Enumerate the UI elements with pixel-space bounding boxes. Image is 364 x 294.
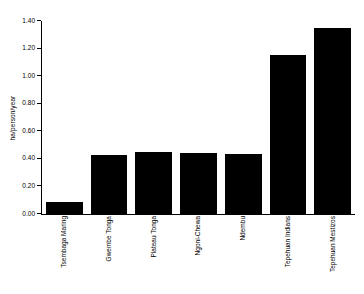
bar-slot [221, 21, 266, 214]
y-axis-tick: 0.20 [37, 185, 41, 186]
x-axis-line [41, 214, 355, 215]
bar [46, 202, 83, 214]
y-axis-tick-label: 0.60 [22, 128, 35, 135]
bar-slot [87, 21, 132, 214]
bar-slot [42, 21, 87, 214]
x-axis-tick-slot: Tepehuan Mestizos [310, 216, 355, 294]
y-axis-tick-label: 0.40 [22, 155, 35, 162]
x-axis-tick-slot: Ndembu [221, 216, 266, 294]
y-axis-tick-label: 1.20 [22, 45, 35, 52]
x-axis-tick-slot: Ngoni-Chewa [176, 216, 221, 294]
bar-slot [310, 21, 355, 214]
x-axis-tick-label: Ngoni-Chewa [195, 216, 202, 255]
y-axis-tick: 1.00 [37, 75, 41, 76]
x-axis-tick-label: Tsembaga Maring [61, 216, 68, 268]
y-axis-tick: 0.80 [37, 103, 41, 104]
x-axis-tick-label: Ndembu [240, 216, 247, 241]
x-axis-tick-slot: Tsembaga Maring [42, 216, 87, 294]
y-axis-tick-label: 0.20 [22, 183, 35, 190]
x-axis-tick-slot: Gwembe Tonga [87, 216, 132, 294]
bar-chart-figure: ha/person/year 0.000.200.400.600.801.001… [0, 0, 364, 294]
bar [91, 155, 128, 214]
bar [180, 153, 217, 214]
y-axis-tick: 1.20 [37, 48, 41, 49]
y-axis-title-container: ha/person/year [6, 18, 20, 218]
bar [270, 55, 307, 214]
x-axis-tick-slot: Plateau Tonga [131, 216, 176, 294]
x-axis-tick-slot: Tepehuan Indians [266, 216, 311, 294]
y-axis-tick-label: 1.40 [22, 17, 35, 24]
x-axis-tick-label: Gwembe Tonga [106, 216, 113, 261]
y-axis-title: ha/person/year [10, 96, 17, 141]
bar-slot [266, 21, 311, 214]
bar [314, 28, 351, 214]
y-axis-tick-label: 0.80 [22, 100, 35, 107]
x-axis-tick-label: Tepehuan Mestizos [329, 216, 336, 272]
y-axis-tick-label: 0.00 [22, 210, 35, 217]
bar [135, 152, 172, 214]
y-axis-tick: 0.40 [37, 158, 41, 159]
x-axis-tick-label: Plateau Tonga [151, 216, 158, 257]
plot-area: 0.000.200.400.600.801.001.201.40 [41, 21, 355, 215]
y-axis-tick: 1.40 [37, 20, 41, 21]
bar-slot [131, 21, 176, 214]
y-axis-tick-label: 1.00 [22, 72, 35, 79]
bar-slot [176, 21, 221, 214]
x-axis-tick-labels: Tsembaga MaringGwembe TongaPlateau Tonga… [42, 216, 355, 294]
x-axis-tick-label: Tepehuan Indians [285, 216, 292, 267]
bar [225, 154, 262, 214]
y-axis-tick: 0.00 [37, 213, 41, 214]
bar-series [42, 21, 355, 214]
y-axis-tick: 0.60 [37, 130, 41, 131]
